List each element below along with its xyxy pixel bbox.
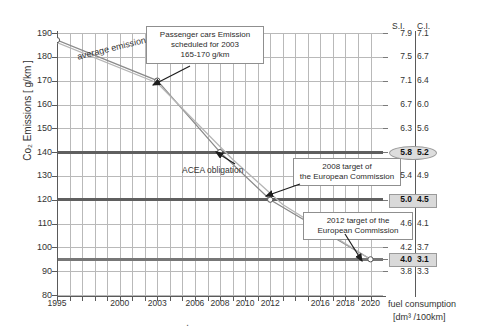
x-tick-label-2020: 2020 xyxy=(358,299,384,308)
right-axis-si-100: 4.2 xyxy=(392,243,412,252)
right-tick-95 xyxy=(383,259,388,260)
callout-line-1: Passenger cars Emission xyxy=(151,30,259,40)
right-axis-si-150: 6.3 xyxy=(392,124,412,133)
right-axis-ci-180: 6.7 xyxy=(417,52,437,61)
y-tick-label-90: 90 xyxy=(26,267,52,276)
y-tick-label-120: 120 xyxy=(26,195,52,204)
right-axis-ci-100: 3.7 xyxy=(417,243,437,252)
right-axis-si-190: 7.9 xyxy=(392,29,412,38)
right-axis-si-140: 5.8 xyxy=(392,148,412,157)
callout-line-2: the European Commission xyxy=(298,172,396,182)
x-tick-label-2016: 2016 xyxy=(307,299,333,308)
right-axis-ci-160: 6.0 xyxy=(417,100,437,109)
right-tick-180 xyxy=(383,57,388,58)
right-axis-ci-170: 6.4 xyxy=(417,76,437,85)
right-axis-ci-90: 3.3 xyxy=(417,267,437,276)
x-axis-title-unit: [dm³ /100km] xyxy=(393,312,446,323)
callout-passenger-cars-2003: Passenger cars Emission scheduled for 20… xyxy=(146,26,264,64)
x-tick-label-2012: 2012 xyxy=(257,299,283,308)
right-axis-ci-130: 4.9 xyxy=(417,171,437,180)
callout-line-2: scheduled for 2003 xyxy=(151,40,259,50)
x-tick-label-2008: 2008 xyxy=(207,299,233,308)
data-marker-2008 xyxy=(217,150,222,155)
x-tick-1998 xyxy=(95,296,96,301)
right-axis-si-170: 7.1 xyxy=(392,76,412,85)
right-axis-si-90: 3.8 xyxy=(392,267,412,276)
right-axis-ci-150: 5.6 xyxy=(417,124,437,133)
y-axis-title: Co₂ Emissions [ g/km ] xyxy=(22,36,33,186)
data-marker-2020 xyxy=(368,257,373,262)
y-tick-label-100: 100 xyxy=(26,243,52,252)
right-axis-ci-110: 4.1 xyxy=(417,219,437,228)
x-tick-label-1995: 1995 xyxy=(44,299,70,308)
right-tick-120 xyxy=(383,200,388,201)
right-tick-100 xyxy=(383,247,388,248)
right-axis-si-95: 4.0 xyxy=(392,255,412,264)
right-axis-ci-120: 4.5 xyxy=(417,195,437,204)
right-tick-160 xyxy=(383,105,388,106)
right-tick-190 xyxy=(383,33,388,34)
x-tick-2014 xyxy=(295,296,296,301)
x-tick-label-2018: 2018 xyxy=(332,299,358,308)
right-axis-si-130: 5.4 xyxy=(392,171,412,180)
right-axis-ci-190: 7.1 xyxy=(417,29,437,38)
callout-line-1: 2008 target of xyxy=(298,162,396,172)
acea-obligation-label: ACEA obligation xyxy=(182,165,243,175)
right-axis-ci-95: 3.1 xyxy=(417,255,437,264)
right-axis-si-160: 6.7 xyxy=(392,100,412,109)
data-marker-2012 xyxy=(268,197,273,202)
callout-target-2008: 2008 target of the European Commission xyxy=(293,158,401,186)
right-tick-150 xyxy=(383,128,388,129)
x-tick-1997 xyxy=(82,296,83,301)
right-axis-ci-140: 5.2 xyxy=(417,148,437,157)
right-tick-90 xyxy=(383,271,388,272)
right-tick-140 xyxy=(383,152,388,153)
right-axis-si-180: 7.5 xyxy=(392,52,412,61)
data-marker-2003 xyxy=(155,78,160,83)
x-tick-label-2010: 2010 xyxy=(232,299,258,308)
x-tick-label-2006: 2006 xyxy=(182,299,208,308)
stray-dot: . xyxy=(186,316,189,328)
y-tick-label-110: 110 xyxy=(26,219,52,228)
x-tick-label-2000: 2000 xyxy=(107,299,133,308)
right-tick-170 xyxy=(383,81,388,82)
callout-line-3: 165-170 g/km xyxy=(151,50,259,60)
right-axis-si-110: 4.6 xyxy=(392,219,412,228)
data-marker-1995 xyxy=(57,38,60,43)
chart-canvas: 8090100110120130140150160170180190 19952… xyxy=(0,0,479,332)
right-axis-si-120: 5.0 xyxy=(392,195,412,204)
x-tick-label-2003: 2003 xyxy=(144,299,170,308)
x-axis-title: fuel consumption xyxy=(388,299,456,310)
